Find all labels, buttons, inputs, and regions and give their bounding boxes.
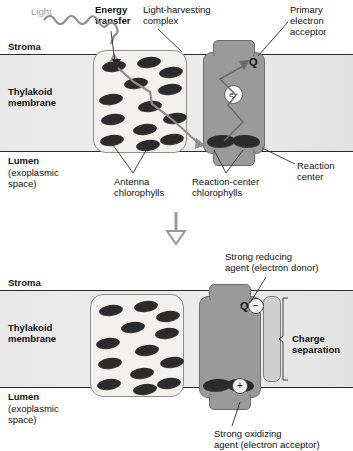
energy-cascade-arrowhead	[195, 138, 205, 149]
panel-light-harvesting: Light Stroma Thylakoid membrane Lumen (e…	[0, 0, 353, 215]
bottom-panel-vectors	[0, 248, 353, 451]
transition-arrow-svg	[0, 208, 353, 248]
energy-transfer-arrowhead	[112, 59, 121, 68]
electron-zigzag-arrow	[220, 65, 245, 141]
primary-acceptor-leader	[258, 22, 288, 56]
rc-chlorophylls-leader	[214, 150, 243, 173]
reducing-agent-leader	[250, 277, 266, 303]
panel-charge-separation: Stroma Thylakoid membrane Lumen (exoplas…	[0, 248, 353, 451]
electron-arrowhead	[239, 60, 250, 70]
oxidizing-agent-leader	[232, 402, 240, 426]
down-arrow-head	[167, 231, 185, 244]
antenna-leader	[113, 140, 152, 173]
charge-separation-bracket	[279, 298, 288, 380]
top-panel-vectors	[0, 0, 353, 215]
lhc-leader	[158, 29, 182, 52]
reaction-center-leader	[262, 148, 295, 164]
energy-cascade-arrow	[118, 68, 198, 143]
light-wave-arrow	[44, 16, 118, 44]
